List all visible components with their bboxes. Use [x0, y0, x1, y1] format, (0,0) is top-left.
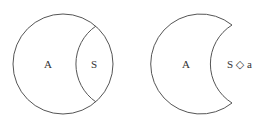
right-label-s-erosion: S ◇ a — [227, 59, 252, 70]
set-a-circle — [13, 14, 113, 114]
left-label-s: S — [91, 59, 97, 70]
left-figure — [13, 14, 113, 114]
right-label-a: A — [182, 59, 190, 70]
eroded-set-shape — [151, 14, 232, 114]
left-label-a: A — [44, 59, 52, 70]
right-figure — [151, 14, 232, 114]
